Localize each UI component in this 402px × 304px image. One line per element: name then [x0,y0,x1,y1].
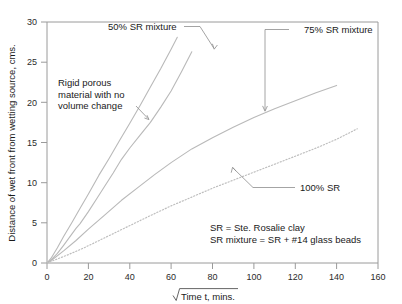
label-rigid-porous-line2: material with no [58,89,125,100]
x-tick-label-80: 80 [207,272,217,282]
label-rigid-porous-line1: Rigid porous [58,77,112,88]
x-tick-label-100: 100 [246,272,261,282]
annotation-75-sr: 75% SR mixture [263,24,373,111]
leader-50-sr [184,27,214,49]
arrowhead-50-sr [212,44,217,49]
x-tick-label-140: 140 [329,272,344,282]
x-tick-label-40: 40 [125,272,135,282]
chart-plot-svg: 0 5 10 15 20 25 30 0 20 40 60 80 100 120 [0,0,402,304]
y-tick-label-30: 30 [27,17,37,27]
leader-75-sr [265,30,289,111]
arrowhead-100-sr [231,167,236,173]
label-50-sr: 50% SR mixture [108,21,177,32]
y-tick-label-10: 10 [27,178,37,188]
y-axis-title: Distance of wet front from wetting sourc… [6,44,17,241]
note-sr: SR = Ste. Rosalie clay [210,222,305,233]
chart-notes: SR = Ste. Rosalie clay SR mixture = SR +… [210,222,361,245]
y-tick-label-15: 15 [27,138,37,148]
note-sr-mixture: SR mixture = SR + #14 glass beads [210,234,361,245]
label-75-sr: 75% SR mixture [304,24,373,35]
x-tick-label-160: 160 [370,272,385,282]
y-tick-label-5: 5 [32,218,37,228]
x-tick-label-120: 120 [288,272,303,282]
leader-100-sr [233,168,295,188]
x-tick-label-60: 60 [166,272,176,282]
annotation-100-sr: 100% SR [231,167,340,193]
x-tick-label-20: 20 [83,272,93,282]
label-100-sr: 100% SR [300,182,340,193]
x-axis-title: Time t, mins. [181,291,235,302]
chart-figure: 0 5 10 15 20 25 30 0 20 40 60 80 100 120 [0,0,402,304]
annotation-50-sr: 50% SR mixture [108,21,217,49]
y-tick-label-0: 0 [32,258,37,268]
x-tick-label-0: 0 [44,272,49,282]
y-axis-ticks: 0 5 10 15 20 25 30 [27,17,47,268]
leader-rigid-porous [136,106,148,119]
label-rigid-porous-line3: volume change [58,100,122,111]
x-axis-ticks: 0 20 40 60 80 100 120 140 160 [44,263,385,282]
series-group [47,37,357,263]
x-axis-title-group: Time t, mins. [173,289,238,302]
y-tick-label-25: 25 [27,57,37,67]
series-line-50-sr-upper [47,37,177,263]
y-tick-label-20: 20 [27,98,37,108]
